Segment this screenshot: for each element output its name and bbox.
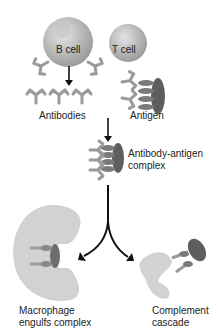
label-b-cell: B cell <box>56 44 80 55</box>
immune-response-diagram <box>0 0 218 331</box>
antigen-approaching-antibodies <box>120 71 136 109</box>
free-antibodies <box>27 90 91 103</box>
label-complex-line1: Antibody-antigen <box>128 148 203 159</box>
macrophage <box>13 205 81 301</box>
label-complex-line2: complex <box>128 160 165 171</box>
antigen <box>138 78 165 114</box>
label-antigen: Antigen <box>130 110 164 121</box>
b-cell <box>43 17 93 67</box>
label-macrophage-line1: Macrophage <box>19 305 75 316</box>
complement-cascade <box>139 236 209 299</box>
label-t-cell: T cell <box>112 44 136 55</box>
label-complement-line1: Complement <box>152 305 209 316</box>
label-complement-line2: cascade <box>152 317 189 328</box>
label-macrophage-line2: engulfs complex <box>19 317 91 328</box>
branch-arrow-icon <box>78 185 134 261</box>
antibody-antigen-complex <box>90 141 124 179</box>
label-antibodies: Antibodies <box>39 110 86 121</box>
arrow-icon <box>104 118 112 142</box>
t-cell <box>109 24 147 62</box>
arrow-icon <box>65 66 73 86</box>
